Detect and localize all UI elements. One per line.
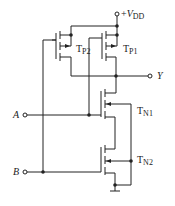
tn1-transistor [101,76,131,149]
schematic-wires [0,0,175,206]
input-a-label: A [13,110,19,120]
tn2-label: TN2 [137,155,153,167]
tn1-label: TN1 [137,106,153,118]
output-label: Y [157,71,163,81]
input-b-label: B [13,167,19,177]
tp2-transistor [52,26,71,76]
tp1-subscript: P1 [129,47,137,56]
a-terminal [23,113,27,117]
ground-icon [110,185,120,191]
tn2-subscript: N2 [143,158,153,167]
vdd-terminal [115,12,119,16]
b-terminal [23,170,27,174]
tp1-transistor [102,31,117,76]
tn1-subscript: N1 [143,109,153,118]
tp2-subscript: P2 [82,47,90,56]
tp1-label: TP1 [123,44,138,56]
tp2-label: TP2 [76,44,91,56]
tn2-transistor [101,145,133,185]
vdd-subscript: DD [133,12,145,21]
vdd-label: +VDD [121,9,144,21]
circuit-diagram: +VDD TP2 TP1 Y TN1 A TN2 B [0,0,175,206]
y-terminal [148,74,152,78]
